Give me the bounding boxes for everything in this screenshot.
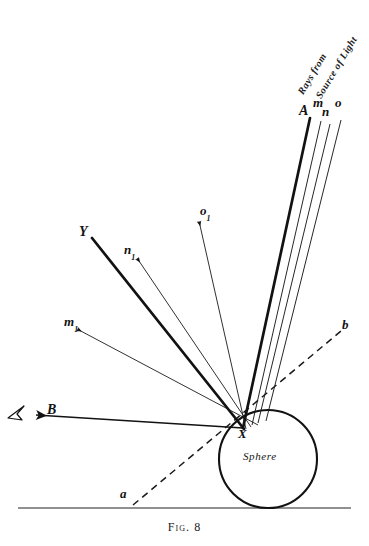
reflected-ray-B xyxy=(36,415,243,428)
reflected-ray-m1 xyxy=(77,329,258,425)
label-reflected-ray-n1-subscript: 1 xyxy=(131,253,135,262)
label-incident-ray-A: A xyxy=(299,104,308,118)
sphere-label: Sphere xyxy=(243,450,277,462)
label-incident-ray-o: o xyxy=(335,96,342,109)
reflected-ray-n1 xyxy=(137,258,251,427)
label-reflected-ray-m1: m1 xyxy=(64,315,78,332)
ray-direction-dart-icon xyxy=(8,406,24,420)
label-reflected-ray-m1-base: m xyxy=(64,314,74,329)
figure-8-illustration: A m n o Y n1 m1 o1 B X a b Sphere Rays f… xyxy=(0,0,369,546)
label-reflected-ray-o1: o1 xyxy=(200,204,211,221)
label-reflected-ray-o1-base: o xyxy=(200,203,207,218)
label-axis-point-b: b xyxy=(342,318,349,331)
label-reflected-ray-o1-subscript: 1 xyxy=(207,214,211,223)
label-reflected-ray-B: B xyxy=(47,403,56,417)
reflected-ray-Y xyxy=(92,238,244,429)
label-axis-point-a: a xyxy=(120,487,127,500)
incident-ray-n xyxy=(258,124,330,423)
label-reflected-ray-m1-subscript: 1 xyxy=(74,325,78,334)
label-reflected-ray-n1: n1 xyxy=(124,243,135,260)
optics-diagram-canvas xyxy=(0,0,369,546)
axis-line-ab-dashed xyxy=(133,331,341,505)
incident-ray-m xyxy=(252,121,321,425)
incident-ray-A xyxy=(243,118,310,428)
figure-caption: Fig. 8 xyxy=(0,520,369,535)
label-incident-ray-n: n xyxy=(322,105,329,118)
label-point-X: X xyxy=(238,427,247,440)
label-reflected-ray-Y: Y xyxy=(79,225,88,239)
